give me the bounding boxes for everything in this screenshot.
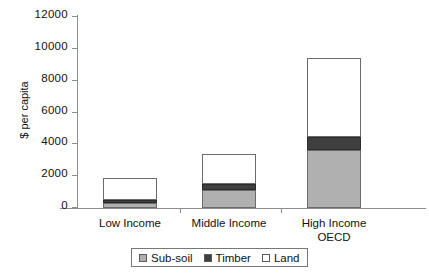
y-tick-label: 0 — [61, 199, 68, 211]
bar-segment-timber — [202, 184, 256, 190]
y-tick-mark — [72, 175, 77, 176]
x-axis-label-line: OECD — [264, 230, 404, 244]
y-tick-mark — [72, 207, 77, 208]
bar-segment-timber — [307, 137, 361, 150]
bar-low-income — [103, 178, 157, 208]
y-tick-mark — [72, 48, 77, 49]
bar-segment-land — [103, 178, 157, 200]
y-tick-mark — [72, 16, 77, 17]
y-tick-label: 2000 — [41, 167, 68, 179]
x-axis-label-line: High Income — [264, 216, 404, 230]
legend-swatch-land — [262, 254, 270, 262]
y-tick-mark — [72, 143, 77, 144]
y-tick-label: 12000 — [35, 8, 68, 20]
y-axis-line — [77, 15, 78, 209]
bar-segment-land — [307, 58, 361, 137]
legend-label-land: Land — [274, 252, 300, 264]
y-axis-title: $ per capita — [18, 50, 30, 170]
legend-item-sub-soil: Sub-soil — [139, 252, 193, 264]
bar-segment-sub-soil — [103, 203, 157, 208]
x-axis-line — [60, 208, 426, 209]
bar-segment-timber — [103, 200, 157, 203]
y-tick-mark — [72, 80, 77, 81]
legend-swatch-timber — [204, 254, 212, 262]
legend-label-sub-soil: Sub-soil — [151, 252, 193, 264]
x-axis-label-high-income-oecd: High IncomeOECD — [264, 216, 404, 244]
y-tick-label: 10000 — [35, 40, 68, 52]
legend-swatch-sub-soil — [139, 254, 147, 262]
bar-high-income-oecd — [307, 58, 361, 208]
bar-segment-land — [202, 154, 256, 184]
bar-segment-sub-soil — [307, 150, 361, 208]
y-tick-mark — [72, 112, 77, 113]
bar-middle-income — [202, 154, 256, 208]
y-tick-label: 4000 — [41, 135, 68, 147]
x-tick-mark-1 — [281, 208, 282, 213]
y-tick-label: 8000 — [41, 72, 68, 84]
x-tick-mark-0 — [180, 208, 181, 213]
chart-legend: Sub-soil Timber Land — [131, 248, 308, 267]
y-tick-label: 6000 — [41, 104, 68, 116]
legend-item-timber: Timber — [204, 252, 251, 264]
legend-label-timber: Timber — [216, 252, 251, 264]
bar-segment-sub-soil — [202, 190, 256, 208]
bar-chart: $ per capita 020004000600080001000012000… — [0, 0, 429, 274]
legend-item-land: Land — [262, 252, 300, 264]
